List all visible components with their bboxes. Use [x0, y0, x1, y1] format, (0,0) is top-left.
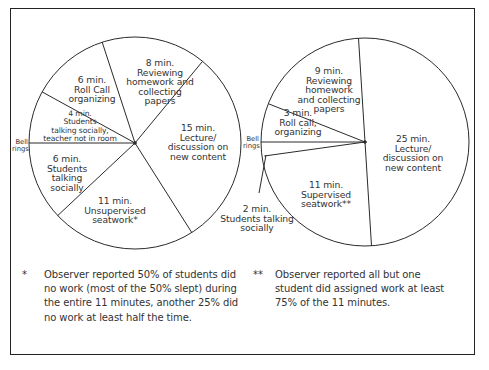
left-bell-rings-label: Bell rings: [12, 139, 28, 152]
footnote-left-mark: *: [22, 268, 27, 282]
right-label-lecture: 25 min. Lecture/ discussion on new conte…: [375, 134, 451, 172]
right-label-talking-socially: 2 min. Students talking socially: [213, 204, 301, 233]
left-label-lecture: 15 min. Lecture/ discussion on new conte…: [158, 123, 238, 161]
footnote-right-text: Observer reported all but one student di…: [275, 269, 444, 308]
left-label-talking-no-teacher: 4 min. Students talking socially, teache…: [40, 110, 120, 144]
left-center-dot: [134, 142, 137, 145]
right-label-supervised-seatwork: 11 min. Supervised seatwork**: [296, 180, 356, 209]
right-bell-rings-label: Bell rings: [243, 136, 259, 149]
right-divider-4: [264, 142, 365, 156]
right-center-dot: [364, 141, 367, 144]
footnote-left-text: Observer reported 50% of students did no…: [44, 269, 238, 323]
left-label-unsupervised-seatwork: 11 min. Unsupervised seatwork*: [80, 196, 150, 225]
footnote-right-mark: **: [253, 268, 263, 282]
left-label-talking-socially: 6 min. Students talking socially: [42, 154, 92, 192]
right-label-reviewing: 9 min. Reviewing homework and collecting…: [292, 66, 366, 114]
left-label-roll-call: 6 min. Roll Call organizing: [62, 75, 122, 104]
footnote-left: * Observer reported 50% of students did …: [44, 268, 244, 325]
footnote-right: ** Observer reported all but one student…: [275, 268, 460, 311]
left-label-reviewing: 8 min. Reviewing homework and collecting…: [118, 58, 202, 106]
right-divider-3: [365, 142, 372, 246]
